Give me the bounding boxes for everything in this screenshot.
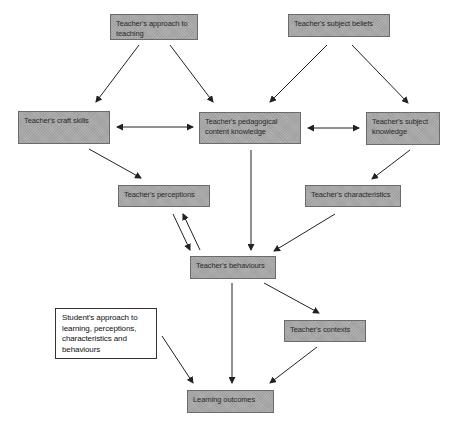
node-label: Teacher's approach to teaching: [116, 19, 187, 38]
node-teachers-contexts: Teacher's contexts: [284, 320, 366, 342]
arrow-perceptions-to-behaviours: [173, 214, 190, 250]
arrow-student-to-outcomes: [162, 336, 193, 383]
node-teachers-pedagogical-content-knowledge: Teacher's pedagogical content knowledge: [199, 112, 301, 144]
node-label: Teacher's behaviours: [196, 261, 265, 270]
node-label: Teacher's contexts: [290, 325, 350, 334]
node-label: Teacher's subject beliefs: [294, 19, 373, 28]
arrow-contexts-to-outcomes: [270, 347, 317, 383]
node-label: Teacher's craft skills: [24, 116, 89, 125]
node-label: Teacher's pedagogical content knowledge: [205, 117, 277, 136]
arrow-characteristics-to-behaviours: [274, 214, 335, 251]
arrow-craft-to-perceptions: [89, 149, 141, 178]
node-learning-outcomes: Learning outcomes: [187, 390, 274, 413]
node-label: Learning outcomes: [193, 395, 255, 404]
arrow-beliefs-to-pck: [270, 45, 327, 102]
arrow-approach-to-pck: [170, 45, 213, 102]
arrow-beliefs-to-subject-knowledge: [352, 45, 408, 103]
arrow-behaviours-to-perceptions: [183, 214, 200, 250]
node-label: Teacher's subject knowledge: [372, 117, 428, 136]
arrow-subject-knowledge-to-characteristics: [372, 150, 410, 179]
arrow-approach-to-craft: [96, 45, 139, 102]
node-teachers-approach-to-teaching: Teacher's approach to teaching: [110, 14, 198, 40]
node-teachers-craft-skills: Teacher's craft skills: [18, 111, 110, 144]
node-teachers-behaviours: Teacher's behaviours: [190, 256, 276, 279]
node-teachers-subject-beliefs: Teacher's subject beliefs: [288, 14, 390, 37]
node-teachers-characteristics: Teacher's characteristics: [305, 185, 401, 207]
node-label: Teacher's characteristics: [311, 190, 390, 199]
node-students-approach: Student's approach to learning, percepti…: [55, 308, 157, 359]
node-teachers-subject-knowledge: Teacher's subject knowledge: [366, 112, 440, 145]
diagram-canvas: Teacher's approach to teaching Teacher's…: [0, 0, 457, 426]
node-label: Student's approach to learning, percepti…: [62, 313, 137, 354]
node-teachers-perceptions: Teacher's perceptions: [118, 185, 210, 207]
arrow-behaviours-to-contexts: [264, 283, 319, 313]
connector-layer: [0, 0, 457, 426]
node-label: Teacher's perceptions: [124, 190, 195, 199]
